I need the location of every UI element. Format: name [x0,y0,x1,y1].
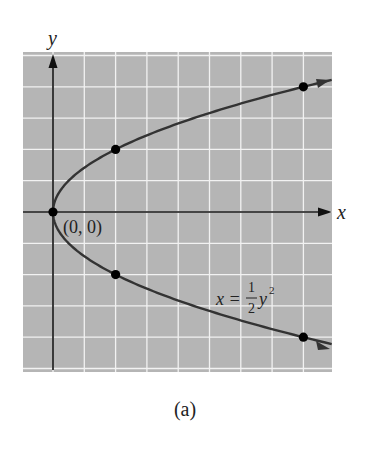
svg-text:y: y [257,289,267,309]
svg-text:x =: x = [215,289,241,309]
y-axis-label: y [46,27,57,50]
data-point [111,145,120,154]
origin-label: (0, 0) [63,217,102,238]
parabola-figure: y x (0, 0) x = 1 2 y 2 [0,0,370,458]
data-point [48,207,57,216]
data-point [299,333,308,342]
svg-text:2: 2 [269,284,275,296]
x-axis-label: x [336,201,346,223]
svg-text:2: 2 [248,301,255,316]
data-point [299,82,308,91]
svg-text:1: 1 [248,280,255,295]
data-point [111,270,120,279]
figure-caption: (a) [0,398,370,421]
